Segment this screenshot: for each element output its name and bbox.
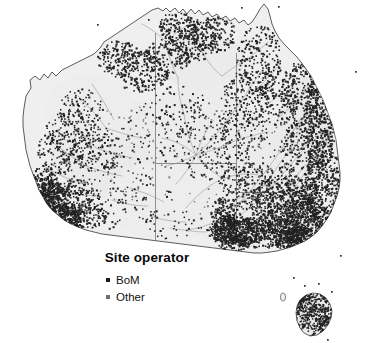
- legend-item-bom[interactable]: BoM: [72, 273, 222, 287]
- legend-label-other: Other: [116, 290, 145, 304]
- legend-swatch-other: [106, 295, 110, 299]
- king-island: [280, 293, 285, 301]
- legend-item-other[interactable]: Other: [72, 290, 222, 304]
- legend-swatch-bom: [106, 278, 110, 282]
- legend-title: Site operator: [72, 250, 222, 266]
- legend: Site operator BoM Other: [72, 250, 222, 307]
- legend-label-bom: BoM: [116, 273, 140, 287]
- australia-site-density-map: Site operator BoM Other: [0, 0, 381, 343]
